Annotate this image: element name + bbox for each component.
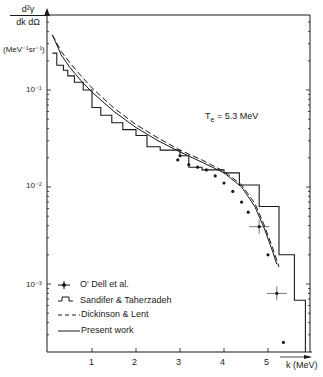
x-tick-label: 4 xyxy=(220,357,225,367)
x-tick-label: 3 xyxy=(176,357,181,367)
y-axis-label-numerator: d²γ xyxy=(10,4,46,16)
series-sandifer-taherzadeh xyxy=(52,53,305,352)
y-axis-label-denominator: dk dΩ xyxy=(10,16,46,27)
x-tick-label: 2 xyxy=(132,357,137,367)
series-odell xyxy=(176,154,287,344)
series-present-work xyxy=(52,35,276,264)
x-axis-label: k (MeV) xyxy=(286,360,318,370)
legend-item-odell: O' Dell et al. xyxy=(80,279,129,289)
legend-histogram-icon xyxy=(58,297,73,301)
y-tick-label: 10⁻¹ xyxy=(26,85,42,94)
x-axis-arrow-icon xyxy=(280,355,312,359)
energy-annotation: Te = 5.3 MeV xyxy=(205,111,258,123)
legend-item-present: Present work xyxy=(81,325,134,335)
series-dickinson-lent xyxy=(52,35,279,267)
legend-glyphs xyxy=(58,281,80,331)
legend-item-dickinson: Dickinson & Lent xyxy=(81,309,149,319)
chart-canvas xyxy=(0,0,323,377)
y-tick-label: 10⁻² xyxy=(26,181,42,190)
annotation-value: = 5.3 MeV xyxy=(214,111,258,121)
x-tick-label: 5 xyxy=(264,357,269,367)
y-axis-label: d²γ dk dΩ xyxy=(10,4,46,27)
legend-item-sandifer: Sandifer & Taherzadeh xyxy=(80,295,171,305)
legend-odell-icon xyxy=(58,281,70,289)
y-axis-unit: (MeV⁻¹sr⁻¹) xyxy=(3,45,45,54)
y-tick-label: 10⁻³ xyxy=(26,280,42,289)
x-tick-label: 1 xyxy=(89,357,94,367)
